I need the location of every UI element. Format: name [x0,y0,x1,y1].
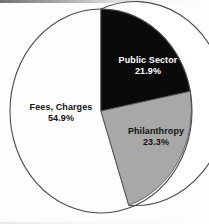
pie-chart-graphic [0,0,209,224]
pie-chart-figure: Public Sector 21.9% Philanthropy 23.3% F… [0,0,209,224]
